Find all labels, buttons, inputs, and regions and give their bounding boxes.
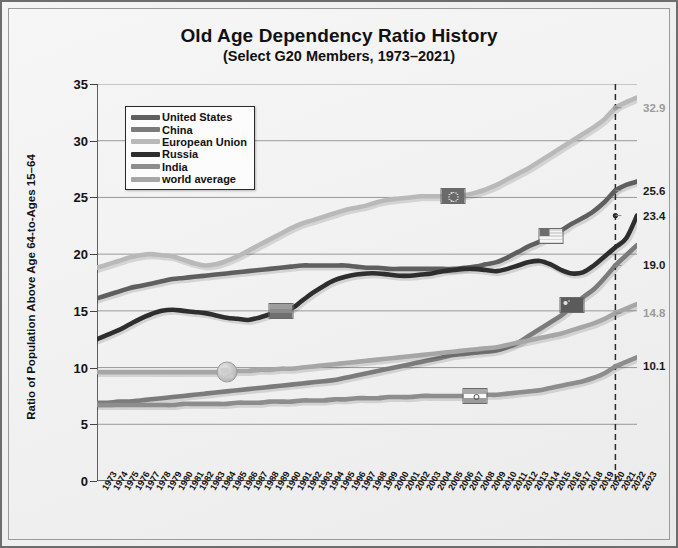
y-tick-label: 5 <box>81 417 88 432</box>
y-tick-mark <box>90 197 97 198</box>
legend-item-label: European Union <box>162 136 247 148</box>
legend-item-label: United States <box>162 111 232 123</box>
y-tick-label: 20 <box>74 247 88 262</box>
y-tick-label: 35 <box>74 77 88 92</box>
legend-color-swatch <box>131 164 160 169</box>
y-tick-label: 15 <box>74 303 88 318</box>
series-end-label: 32.9 <box>643 102 665 114</box>
flag-cn-icon <box>560 297 585 313</box>
y-tick-label: 25 <box>74 190 88 205</box>
y-tick-mark <box>90 84 97 85</box>
series-end-label: 25.6 <box>643 185 665 197</box>
chart-frame: Old Age Dependency Ratio History (Select… <box>0 0 678 548</box>
y-tick-mark <box>90 311 97 312</box>
flag-eu-icon <box>441 188 466 204</box>
legend-item-india[interactable]: India <box>131 161 247 173</box>
legend-item-united-states[interactable]: United States <box>131 111 247 123</box>
y-tick-mark <box>90 254 97 255</box>
legend-item-world-average[interactable]: world average <box>131 173 247 185</box>
legend-color-swatch <box>131 115 160 120</box>
page-subtitle: (Select G20 Members, 1973–2021) <box>9 48 669 64</box>
flag-in-icon <box>463 388 488 404</box>
series-end-label: 23.4 <box>643 210 665 222</box>
legend-color-swatch <box>131 127 160 132</box>
plot-area: 05101520253035 1973197419751976197719781… <box>97 84 637 481</box>
legend-item-russia[interactable]: Russia <box>131 148 247 160</box>
legend-item-label: world average <box>162 173 236 185</box>
chart-legend[interactable]: United StatesChinaEuropean UnionRussiaIn… <box>125 106 255 190</box>
y-tick-label: 10 <box>74 360 88 375</box>
legend-item-label: Russia <box>162 148 198 160</box>
legend-item-european-union[interactable]: European Union <box>131 136 247 148</box>
legend-item-label: China <box>162 124 193 136</box>
series-end-label: 10.1 <box>643 360 665 372</box>
y-tick-mark <box>90 141 97 142</box>
series-end-label: 19.0 <box>643 259 665 271</box>
page-title: Old Age Dependency Ratio History <box>9 25 669 46</box>
y-axis-title: Ratio of Population Above Age 64-to-Ages… <box>25 122 37 452</box>
chart-inner-border: Old Age Dependency Ratio History (Select… <box>8 8 670 540</box>
series-end-label: 14.8 <box>643 307 665 319</box>
chart-title-block: Old Age Dependency Ratio History (Select… <box>9 25 669 65</box>
y-tick-label: 0 <box>81 474 88 489</box>
legend-item-label: India <box>162 161 188 173</box>
y-tick-mark <box>90 424 97 425</box>
legend-item-china[interactable]: China <box>131 123 247 135</box>
flag-us-icon <box>538 228 563 244</box>
y-tick-label: 30 <box>74 133 88 148</box>
legend-color-swatch <box>131 152 160 157</box>
globe-icon <box>216 362 237 383</box>
legend-color-swatch <box>131 177 160 182</box>
y-tick-mark <box>90 368 97 369</box>
legend-color-swatch <box>131 139 160 144</box>
y-tick-mark <box>90 481 97 482</box>
flag-ru-icon <box>268 303 293 319</box>
